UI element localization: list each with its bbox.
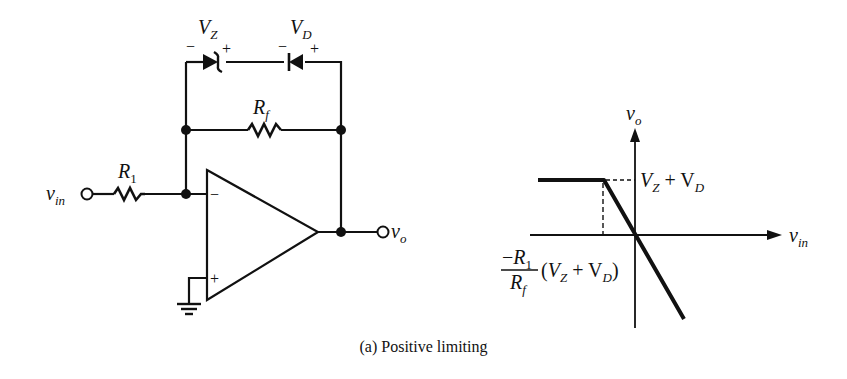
r1-resistor-icon bbox=[114, 188, 145, 200]
svg-text:Rf: Rf bbox=[509, 271, 528, 297]
y-axis-arrow-icon bbox=[630, 128, 640, 142]
vo-label: vo bbox=[391, 220, 407, 246]
vz-label: VZ bbox=[198, 16, 218, 42]
ground-icon bbox=[177, 304, 201, 314]
vd-label: VD bbox=[290, 16, 312, 42]
diode-minus-sign: − bbox=[278, 38, 287, 55]
figure-caption: (a) Positive limiting bbox=[0, 338, 847, 356]
svg-text:(VZ + VD): (VZ + VD) bbox=[541, 259, 619, 285]
vo-terminal bbox=[378, 227, 389, 238]
vin-label: vin bbox=[46, 182, 65, 208]
opamp-noninverting-sign: + bbox=[210, 270, 219, 287]
opamp-triangle-icon bbox=[207, 170, 318, 300]
zener-diode-icon bbox=[203, 52, 222, 72]
zener-plus-sign: + bbox=[222, 40, 231, 57]
vo-axis-label: vo bbox=[626, 102, 642, 128]
x-axis-arrow-icon bbox=[767, 230, 782, 240]
opamp-inverting-sign: − bbox=[210, 186, 219, 203]
diode-icon bbox=[289, 53, 303, 71]
wire-ground bbox=[189, 278, 207, 303]
figure-canvas: VZ − + VD − + Rf R1 vin vo − + vo vin VZ… bbox=[0, 0, 847, 379]
vin-axis-label: vin bbox=[789, 224, 808, 250]
wire-top-right bbox=[305, 62, 341, 130]
vin-terminal bbox=[82, 189, 93, 200]
rf-resistor-icon bbox=[248, 124, 281, 136]
zener-minus-sign: − bbox=[186, 38, 195, 55]
svg-text:−R1: −R1 bbox=[502, 246, 532, 272]
transfer-graph: vo vin VZ + VD −R1 Rf (VZ + VD) bbox=[501, 102, 808, 328]
diode-plus-sign: + bbox=[310, 40, 319, 57]
junction-dots bbox=[181, 125, 346, 237]
break-point-label: −R1 Rf (VZ + VD) bbox=[501, 246, 619, 297]
level-label: VZ + VD bbox=[640, 169, 705, 195]
transfer-curve bbox=[538, 180, 684, 319]
r1-label: R1 bbox=[117, 160, 137, 186]
rf-label: Rf bbox=[252, 96, 271, 122]
